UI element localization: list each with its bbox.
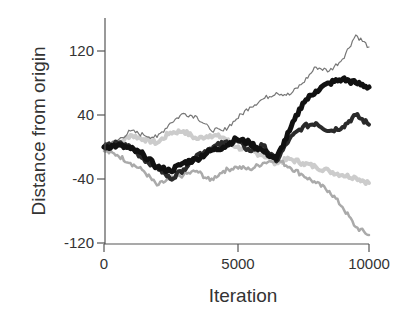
y-tick-label: -40	[72, 170, 94, 187]
plot-area	[104, 35, 369, 235]
y-tick-label: 120	[69, 42, 94, 59]
x-tick-label: 5000	[221, 255, 254, 272]
x-tick-label: 10000	[348, 255, 390, 272]
x-axis-title: Iteration	[209, 285, 278, 306]
x-axis: 0 5000 10000 Iteration	[100, 244, 390, 306]
y-axis-title: Distance from origin	[28, 47, 49, 216]
y-tick-label: 40	[77, 106, 94, 123]
series-line-walk-5	[104, 151, 369, 235]
line-chart: 120 40 -40 -120 Distance from origin 0 5…	[0, 0, 417, 327]
y-tick-label: -120	[64, 234, 94, 251]
y-axis: 120 40 -40 -120 Distance from origin	[28, 18, 105, 251]
series-line-walk-2	[104, 78, 369, 172]
x-tick-label: 0	[100, 255, 108, 272]
